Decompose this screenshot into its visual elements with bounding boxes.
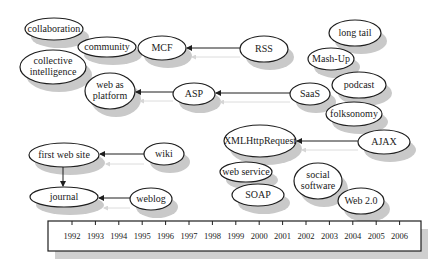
timeline-year-label: 2004 [344,231,362,241]
node-collective-intelligence: collectiveintelligence [20,50,86,84]
node-label: AJAX [371,136,397,147]
node-social-software: socialsoftware [294,163,342,199]
node-web-service: web service [220,162,272,182]
node-label: folksonomy [330,108,378,119]
timeline-year-label: 1997 [181,231,198,241]
node-label: first web site [38,149,90,160]
node-label: platform [93,90,128,101]
node-label: XMLHttpRequest [224,135,296,146]
timeline-year-label: 1993 [87,231,104,241]
node-label: podcast [344,79,375,90]
node-mcf: MCF [138,36,186,60]
timeline-year-label: 2006 [391,231,408,241]
node-community: community [78,37,136,57]
node-label: collaboration [28,23,81,34]
node-rss: RSS [240,36,288,62]
node-ajax: AJAX [358,130,410,154]
node-label: weblog [136,193,165,204]
timeline-year-label: 2002 [298,231,315,241]
node-soap: SOAP [232,184,284,206]
node-label: software [301,180,336,191]
timeline-year-label: 2005 [368,231,385,241]
node-first-web-site: first web site [29,143,99,167]
node-label: SOAP [245,189,271,200]
node-label: wiki [155,148,173,159]
node-mash-up: Mash-Up [308,48,354,70]
node-label: intelligence [30,66,77,77]
node-wiki: wiki [144,143,184,165]
node-weblog: weblog [130,188,172,210]
node-label: ASP [185,88,204,99]
timeline-year-label: 1992 [64,231,81,241]
timeline-year-label: 1994 [110,231,128,241]
node-web-as-platform: web asplatform [85,73,135,109]
node-label: long tail [338,27,371,38]
node-asp: ASP [173,83,215,105]
node-folksonomy: folksonomy [326,102,382,126]
timeline-year-label: 1996 [157,231,174,241]
node-label: web as [96,79,124,90]
node-xmlhttprequest: XMLHttpRequest [224,125,296,157]
node-label: MCF [151,42,173,53]
node-long-tail: long tail [329,20,381,46]
timeline-year-label: 2000 [251,231,268,241]
node-web-2-0: Web 2.0 [338,188,384,214]
timeline-year-label: 1995 [134,231,151,241]
node-label: social [306,169,330,180]
node-label: community [84,41,130,52]
node-label: Web 2.0 [344,195,377,206]
timeline-year-label: 1999 [227,231,244,241]
timeline-year-label: 2001 [274,231,291,241]
node-label: Mash-Up [312,53,350,64]
web2-concept-diagram: 1992199319941995199619971998199920002001… [0,0,446,276]
timeline-year-label: 1998 [204,231,221,241]
node-label: RSS [255,43,273,54]
timeline: 1992199319941995199619971998199920002001… [48,221,428,259]
node-label: web service [222,166,270,177]
node-label: journal [49,191,79,202]
node-label: SaaS [300,88,320,99]
node-label: collective [34,55,73,66]
node-podcast: podcast [332,72,386,98]
node-collaboration: collaboration [25,18,83,40]
node-journal: journal [30,187,98,207]
node-saas: SaaS [290,83,330,105]
timeline-year-label: 2003 [321,231,338,241]
